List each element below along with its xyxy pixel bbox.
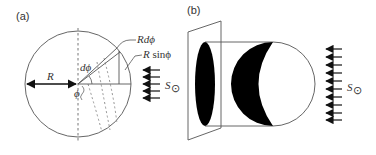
panel-b: (b) S⊙ [187, 4, 362, 140]
sine-label-leader [125, 55, 142, 70]
sphere-lit-outline [273, 42, 315, 126]
dphi-label: dϕ [80, 61, 92, 73]
panel-a: (a) R dϕ ϕ Rdϕ R sinϕ [16, 10, 180, 143]
meridian-dashed-3 [104, 58, 117, 124]
phi-label: ϕ [74, 87, 80, 99]
phi-angle-arc [89, 76, 92, 84]
meridian-dashed-1 [88, 84, 102, 132]
phi-pointer [81, 86, 85, 100]
arc-label-leader [117, 40, 136, 48]
dark-crescent [231, 42, 273, 126]
solar-flux-arrows-a [143, 70, 160, 98]
solar-flux-label-a: S⊙ [165, 79, 180, 94]
solar-flux-arrows-b [326, 49, 342, 120]
shadow-ellipse [195, 42, 215, 126]
panel-a-label: (a) [16, 10, 29, 22]
panel-b-label: (b) [187, 4, 200, 16]
arc-label: Rdϕ [136, 33, 155, 45]
sine-label: R sinϕ [142, 48, 171, 60]
solar-flux-label-b: S⊙ [347, 81, 362, 96]
diagram-canvas: (a) R dϕ ϕ Rdϕ R sinϕ [0, 0, 376, 155]
radius-label: R [46, 70, 54, 82]
